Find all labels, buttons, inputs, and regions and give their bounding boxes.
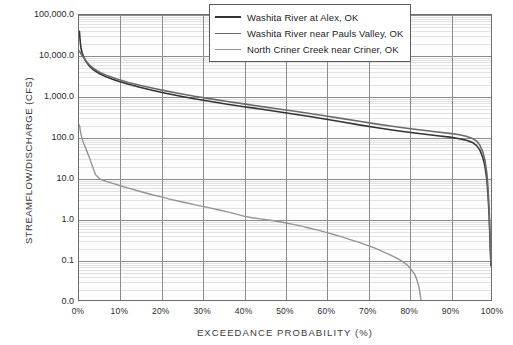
legend-item[interactable]: Washita River at Alex, OK [215,9,403,25]
legend-line-swatch [215,16,241,18]
legend: Washita River at Alex, OKWashita River n… [209,4,411,62]
x-axis-title-text: Exceedance Probability (%) [197,327,373,338]
legend-item-label: Washita River at Alex, OK [247,12,358,23]
x-tick-label: 100% [481,306,504,316]
x-axis-title: Exceedance Probability (%) [78,327,492,338]
y-tick-label: 100.0 [2,132,74,142]
x-tick-label: 20% [152,306,170,316]
y-tick-label: 0.0 [2,296,74,306]
x-tick-label: 90% [442,306,460,316]
x-tick-label: 50% [276,306,294,316]
legend-item-label: North Criner Creek near Criner, OK [247,44,399,55]
x-tick-label: 80% [400,306,418,316]
y-tick-label: 10.0 [2,173,74,183]
y-tick-label: 100,000.0 [2,9,74,19]
series-line-2 [79,51,491,263]
x-tick-label: 0% [72,306,85,316]
series-line-3 [79,125,421,300]
y-tick-label: 1,000.0 [2,91,74,101]
series-line-1 [79,31,491,265]
x-tick-label: 40% [235,306,253,316]
y-tick-label: 10,000.0 [2,50,74,60]
y-tick-label: 1.0 [2,214,74,224]
legend-item-label: Washita River near Pauls Valley, OK [247,28,403,39]
y-tick-label: 0.1 [2,255,74,265]
legend-line-swatch [215,33,241,34]
x-tick-label: 70% [359,306,377,316]
x-tick-label: 30% [193,306,211,316]
legend-item[interactable]: North Criner Creek near Criner, OK [215,41,403,57]
y-axis-tick-labels: 100,000.010,000.01,000.0100.010.01.00.10… [0,0,74,345]
legend-line-swatch [215,49,241,50]
x-tick-label: 10% [111,306,129,316]
flow-duration-curve-figure: Streamflow/Discharge (cfs) 100,000.010,0… [0,0,513,345]
legend-item[interactable]: Washita River near Pauls Valley, OK [215,25,403,41]
x-tick-label: 60% [318,306,336,316]
